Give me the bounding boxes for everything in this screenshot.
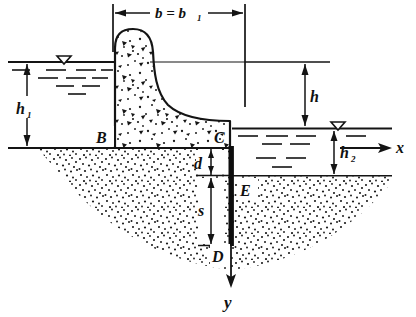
- dimension-s: s: [197, 178, 224, 244]
- point-e-label: E: [239, 182, 251, 199]
- h-label: h: [310, 88, 319, 105]
- d-label: d: [194, 155, 203, 172]
- h1-arrow-down-icon: [24, 135, 31, 146]
- h2-label-subscript: 2: [350, 154, 356, 164]
- diagram-canvas: b = b 1 h 1 h h: [0, 0, 416, 317]
- b-dimension-label-subscript: 1: [197, 13, 202, 23]
- sheet-pile: [229, 146, 234, 246]
- s-label: s: [197, 202, 204, 219]
- h1-label: h: [16, 100, 25, 117]
- point-c-label: C: [214, 129, 225, 146]
- b-arrow-left-icon: [115, 10, 126, 17]
- dimension-d: d: [194, 150, 228, 174]
- h-arrow-down-icon: [302, 115, 309, 126]
- dimension-h: h: [302, 64, 331, 126]
- h1-label-subscript: 1: [27, 110, 32, 120]
- sheet-pile-body: [229, 146, 234, 246]
- b-dimension-label: b = b: [155, 5, 187, 21]
- dimension-h1: h 1: [14, 64, 44, 146]
- h-arrow-up-icon: [302, 64, 309, 75]
- point-b-label: B: [95, 129, 107, 146]
- b-arrow-right-icon: [232, 10, 243, 17]
- point-d-label: D: [211, 248, 224, 265]
- x-axis-label: x: [395, 139, 404, 156]
- h2-label: h: [340, 144, 349, 161]
- y-axis-label: y: [222, 293, 232, 312]
- seepage-diagram-figure: b = b 1 h 1 h h: [0, 0, 416, 317]
